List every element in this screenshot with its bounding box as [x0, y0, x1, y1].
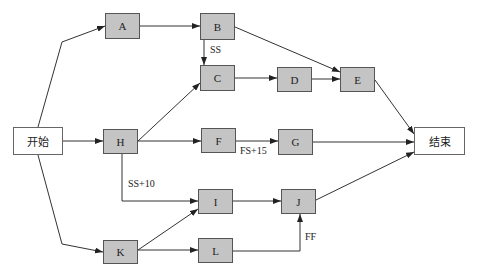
edge-start-to-K — [38, 155, 103, 252]
node-label: C — [214, 72, 221, 84]
edge-label-B-C: SS — [210, 44, 221, 55]
edge-K-to-I — [138, 209, 198, 250]
node-label: B — [214, 21, 221, 33]
node-label: J — [296, 196, 300, 208]
node-label: D — [291, 74, 299, 86]
node-label: H — [117, 136, 125, 148]
node-L: L — [198, 238, 233, 263]
node-start: 开始 — [13, 127, 63, 155]
node-G: G — [278, 129, 313, 155]
edge-label-F-G: FS+15 — [240, 145, 267, 156]
node-label: A — [119, 20, 127, 32]
node-end: 结束 — [414, 127, 465, 155]
edge-E-to-end — [375, 80, 414, 134]
node-label: L — [212, 245, 219, 257]
node-label: F — [215, 135, 221, 147]
edge-B-to-E — [235, 27, 340, 72]
node-label: G — [292, 136, 300, 148]
node-J: J — [281, 189, 316, 214]
node-F: F — [201, 128, 236, 153]
node-E: E — [340, 67, 375, 92]
edge-label-L-J: FF — [305, 231, 316, 242]
node-C: C — [200, 65, 235, 91]
node-label: K — [117, 246, 125, 258]
node-label: I — [214, 196, 218, 208]
edge-J-to-end — [316, 152, 414, 200]
edge-H-to-C — [138, 83, 200, 141]
edge-label-H-I: SS+10 — [128, 178, 155, 189]
edge-layer — [0, 0, 478, 279]
node-I: I — [198, 189, 233, 214]
node-D: D — [277, 67, 312, 92]
edge-L-to-J — [233, 214, 300, 251]
node-B: B — [200, 13, 235, 40]
node-A: A — [105, 13, 140, 39]
node-label: 开始 — [27, 133, 49, 149]
node-H: H — [103, 129, 138, 154]
edge-start-to-A — [38, 26, 105, 127]
node-label: 结束 — [429, 133, 451, 149]
node-K: K — [103, 240, 138, 264]
network-diagram: 开始ABCDEHFGIJKL结束 SSFS+15SS+10FF — [0, 0, 478, 279]
node-label: E — [354, 74, 361, 86]
